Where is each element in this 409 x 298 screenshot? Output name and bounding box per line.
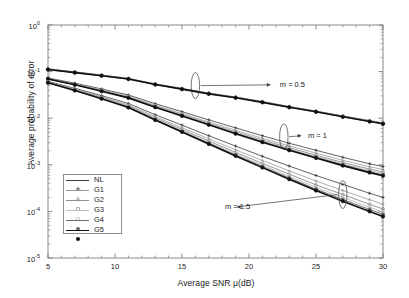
x-tick-label-20: 20 (237, 262, 261, 271)
figure-chart-average-probability-of-error: Average probability of error Average SNR… (0, 0, 409, 298)
series-marker-g5 (288, 106, 291, 109)
series-marker-g1 (341, 189, 344, 192)
series-marker-nl (341, 183, 344, 186)
series-marker-g5 (381, 174, 384, 177)
series-marker-g5 (180, 114, 183, 117)
series-marker-nl (314, 149, 317, 152)
annotation-arrow-2 (237, 195, 338, 207)
legend-item-g4[interactable]: G4 (64, 215, 121, 225)
legend-sample-nl (64, 175, 91, 185)
series-marker-g5 (234, 96, 237, 99)
x-tick-label-15: 15 (170, 262, 194, 271)
series-marker-g5 (381, 215, 384, 218)
x-tick-label-10: 10 (103, 262, 127, 271)
series-marker-g5 (127, 96, 130, 99)
curve-group-m-1 (46, 76, 384, 177)
legend-marker-plus-icon (75, 188, 80, 193)
series-marker-g5 (100, 74, 103, 77)
series-marker-g5 (73, 71, 76, 74)
legend-label-nl: NL (91, 175, 104, 185)
legend-sample-g1 (64, 185, 91, 195)
series-marker-g1 (261, 159, 264, 162)
legend-sample-g2 (64, 195, 91, 205)
y-tick-label-1e-3: 10-3 (14, 160, 40, 171)
series-marker-nl (368, 162, 371, 165)
plot-canvas (0, 0, 409, 298)
series-marker-g5 (207, 92, 210, 95)
series-marker-g5 (180, 130, 183, 133)
series-marker-nl (368, 192, 371, 195)
series-marker-g5 (207, 142, 210, 145)
legend[interactable]: NLG1G2G3G4G5 (63, 174, 122, 234)
series-marker-g5 (368, 171, 371, 174)
series-marker-nl (261, 155, 264, 158)
legend-sample-g3 (64, 205, 91, 215)
legend-label-g1: G1 (91, 185, 104, 195)
legend-label-g3: G3 (91, 205, 104, 215)
legend-marker-dot-icon (75, 218, 80, 223)
annotation-ellipse-0 (191, 73, 199, 99)
x-axis-label: Average SNR μ(dB) (48, 278, 384, 288)
series-marker-g5 (73, 83, 76, 86)
legend-marker-circle-icon (75, 208, 80, 213)
series-marker-g5 (381, 122, 384, 125)
legend-item-nl[interactable]: NL (64, 175, 121, 185)
series-marker-g5 (341, 164, 344, 167)
legend-marker-plus-icon (75, 178, 80, 183)
legend-item-g5[interactable]: G5 (64, 225, 121, 235)
series-marker-g5 (46, 68, 49, 71)
y-tick-label-1e-4: 10-4 (14, 206, 40, 217)
series-marker-g5 (314, 156, 317, 159)
legend-sample-g4 (64, 215, 91, 225)
series-marker-g1 (314, 179, 317, 182)
series-marker-nl (207, 134, 210, 137)
series-marker-g5 (288, 149, 291, 152)
series-marker-g5 (154, 83, 157, 86)
series-marker-g5 (341, 115, 344, 118)
legend-label-g2: G2 (91, 195, 104, 205)
series-marker-g5 (154, 118, 157, 121)
series-marker-g5 (261, 166, 264, 169)
annotation-arrowhead-1 (298, 134, 302, 138)
series-marker-nl (234, 144, 237, 147)
y-tick-label-1e0: 100 (14, 20, 40, 31)
legend-item-g2[interactable]: G2 (64, 195, 121, 205)
x-tick-label-30: 30 (371, 262, 395, 271)
series-marker-g5 (100, 89, 103, 92)
series-marker-g1 (288, 169, 291, 172)
series-marker-g5 (341, 199, 344, 202)
series-marker-nl (314, 174, 317, 177)
legend-label-g4: G4 (91, 215, 104, 225)
series-marker-g5 (180, 87, 183, 90)
series-marker-g5 (127, 106, 130, 109)
series-marker-g1 (381, 203, 384, 206)
series-marker-g5 (46, 81, 49, 84)
y-tick-label-1e-5: 10-5 (14, 253, 40, 264)
series-marker-nl (341, 156, 344, 159)
series-marker-g5 (261, 141, 264, 144)
series-marker-nl (288, 164, 291, 167)
series-marker-g5 (368, 120, 371, 123)
series-marker-g1 (368, 198, 371, 201)
legend-sample-g5 (64, 225, 91, 235)
legend-item-g3[interactable]: G3 (64, 205, 121, 215)
x-tick-label-25: 25 (304, 262, 328, 271)
annotation-label-m-0.5: m = 0.5 (280, 80, 305, 89)
series-line-g2 (48, 79, 383, 172)
series-marker-g5 (314, 189, 317, 192)
legend-item-g1[interactable]: G1 (64, 185, 121, 195)
series-marker-g5 (368, 210, 371, 213)
series-marker-g5 (234, 154, 237, 157)
series-marker-g5 (314, 110, 317, 113)
y-tick-label-1e-2: 10-2 (14, 113, 40, 124)
annotation-label-m-1: m = 1 (308, 131, 327, 140)
series-marker-g5 (234, 132, 237, 135)
series-marker-g5 (154, 106, 157, 109)
series-marker-g5 (207, 123, 210, 126)
series-marker-nl (381, 196, 384, 199)
series-line-g1 (48, 78, 383, 169)
series-marker-g5 (73, 89, 76, 92)
y-tick-label-1e-1: 10-1 (14, 67, 40, 78)
series-marker-g5 (288, 178, 291, 181)
series-marker-g5 (261, 101, 264, 104)
